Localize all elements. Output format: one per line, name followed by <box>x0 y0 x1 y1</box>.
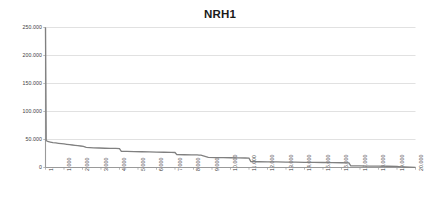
gridlines <box>46 28 416 140</box>
data-series-layer <box>46 28 416 168</box>
chart-container: NRH1 050.000100.000150.000200.000250.000… <box>0 0 440 207</box>
plot-area <box>0 0 440 207</box>
data-line <box>46 28 416 168</box>
